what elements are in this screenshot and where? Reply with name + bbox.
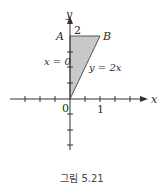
tick-label-x1: 1 [97,103,104,116]
edge-label-y2x: y = 2x [88,62,122,73]
region-diagram: y x 2 A B x = 0 y = 2x 0 1 [0,0,164,196]
tick-label-origin: 0 [62,102,69,115]
point-label-b: B [102,30,111,43]
x-axis-arrow-icon [140,96,148,102]
y-axis-label: y [65,8,73,21]
figure-caption: 그림 5.21 [0,170,164,185]
x-axis-label: x [151,93,158,106]
tick-label-y2: 2 [74,24,81,37]
edge-label-x0: x = 0 [44,56,71,67]
x-axis [10,96,144,102]
point-label-a: A [55,30,64,43]
